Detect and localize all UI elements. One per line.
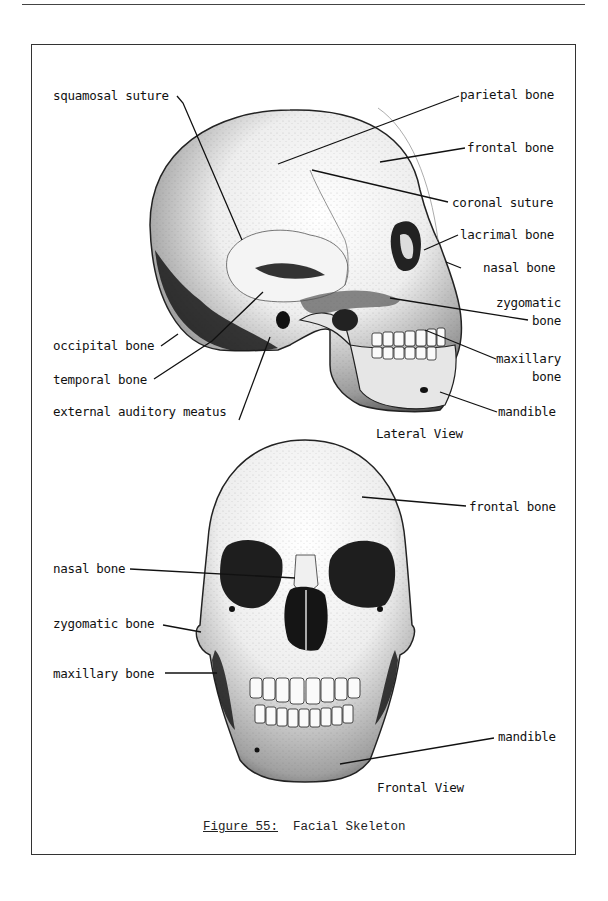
label-frontal-bone-lateral: frontal bone — [467, 141, 554, 155]
figure-title: Facial Skeleton — [278, 820, 406, 834]
label-squamosal-suture: squamosal suture — [53, 89, 169, 103]
label-zygomatic-bone-lateral-line1: zygomatic — [480, 296, 561, 310]
lateral-view-title: Lateral View — [376, 427, 463, 441]
frontal-view-title: Frontal View — [377, 781, 464, 795]
label-maxillary-bone-frontal: maxillary bone — [53, 667, 154, 681]
label-maxillary-bone-lateral-line1: maxillary — [480, 352, 561, 366]
label-lacrimal-bone: lacrimal bone — [460, 228, 554, 242]
label-nasal-bone-frontal: nasal bone — [53, 562, 125, 576]
label-maxillary-bone-lateral-line2: bone — [480, 370, 561, 384]
label-frontal-bone-frontal: frontal bone — [469, 500, 556, 514]
skull-illustrations — [0, 0, 608, 901]
label-mandible-lateral: mandible — [498, 405, 556, 419]
label-occipital-bone: occipital bone — [53, 339, 154, 353]
label-coronal-suture: coronal suture — [452, 196, 553, 210]
label-temporal-bone: temporal bone — [53, 373, 147, 387]
label-external-auditory-meatus: external auditory meatus — [53, 405, 226, 419]
frontal-skull-drawing — [196, 440, 414, 782]
figure-number: Figure 55: — [203, 820, 278, 834]
label-mandible-frontal: mandible — [498, 730, 556, 744]
figure-caption: Figure 55: Facial Skeleton — [203, 820, 406, 834]
label-zygomatic-bone-frontal: zygomatic bone — [53, 617, 154, 631]
label-parietal-bone: parietal bone — [460, 88, 554, 102]
label-zygomatic-bone-lateral-line2: bone — [480, 314, 561, 328]
label-nasal-bone-lateral: nasal bone — [483, 261, 555, 275]
